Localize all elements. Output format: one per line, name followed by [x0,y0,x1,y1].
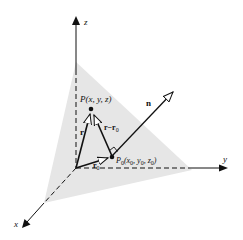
point-P0 [110,155,115,160]
z-axis-label: z [83,17,88,27]
x-axis-arrow-icon [22,219,31,228]
vector-r-label: r [80,127,84,137]
x-axis [22,168,76,228]
plane-normal-vector-diagram: z y x r r0 r−r0 n P(x, y, z) P0(x0, y0, … [0,0,243,240]
normal-vector-label: n [146,98,151,108]
y-axis-label: y [222,154,227,164]
x-axis-label: x [13,219,18,229]
y-axis-arrow-icon [219,165,228,172]
point-P-label: P(x, y, z) [79,94,112,104]
z-axis-arrow-icon [72,16,80,25]
point-P [89,107,94,112]
